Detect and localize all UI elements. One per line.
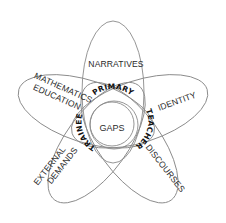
label-identity: IDENTITY	[156, 90, 197, 113]
label-discourses: DISCOURSES	[144, 142, 188, 194]
center-label-gaps: GAPS	[99, 123, 124, 133]
label-external-demands: EXTERNAL DEMANDS	[31, 139, 79, 193]
ring-text-trainee: TRAINEE	[74, 113, 97, 153]
label-narratives: NARRATIVES	[88, 59, 143, 69]
ring-text-primary: PRIMARY	[91, 82, 136, 98]
five-petal-venn-diagram: GAPS PRIMARY TEACHER TRAINEE NARRATIVES …	[0, 0, 226, 223]
label-mathematics-education: MATHEMATICS EDUCATION	[28, 70, 94, 115]
